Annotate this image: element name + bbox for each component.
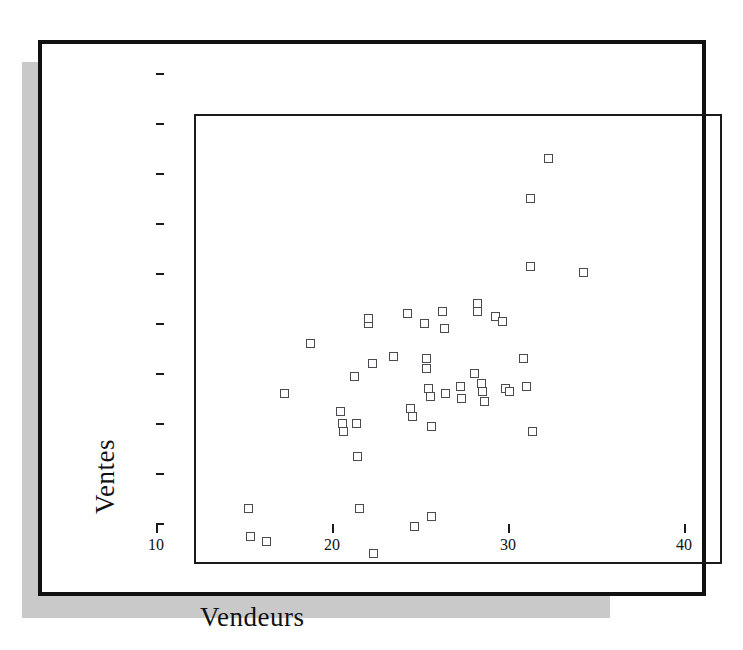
scatter-point [364,314,373,323]
scatter-point [355,504,364,513]
scatter-point [244,504,253,513]
scatter-point [441,389,450,398]
scatter-point [368,359,377,368]
scatter-point [353,452,362,461]
scatter-point [427,422,436,431]
scatter-point [438,307,447,316]
scatter-point [352,419,361,428]
scatter-point [350,372,359,381]
scatter-point [422,364,431,373]
y-axis-title: Ventes [90,439,121,514]
scatter-point [526,194,535,203]
scatter-point [427,512,436,521]
scatter-point [410,522,419,531]
scatter-point [262,537,271,546]
y-tick-mark [156,223,164,225]
figure-page: Ventes Vendeurs 800001000001200001400001… [0,0,743,650]
y-tick-mark [156,473,164,475]
scatter-point [456,382,465,391]
scatter-point [369,549,378,558]
scatter-point [579,268,588,277]
y-tick-mark [156,423,164,425]
scatter-point [389,352,398,361]
y-tick-mark [156,123,164,125]
scatter-point [420,319,429,328]
scatter-point [306,339,315,348]
scatter-point [339,427,348,436]
scatter-point [544,154,553,163]
scatter-point [478,387,487,396]
scatter-point [403,309,412,318]
scatter-point [440,324,449,333]
x-tick-label: 10 [148,536,164,554]
scatter-point [408,412,417,421]
x-axis-title: Vendeurs [200,602,304,633]
scatter-point [526,262,535,271]
scatter-point [498,317,507,326]
scatter-point [470,369,479,378]
y-tick-mark [156,73,164,75]
scatter-point [280,389,289,398]
scatter-point [422,354,431,363]
scatter-point [336,407,345,416]
scatter-plot-area [194,114,722,564]
scatter-point [519,354,528,363]
scatter-point [505,387,514,396]
scatter-point [457,394,466,403]
y-tick-mark [156,173,164,175]
scatter-point [528,427,537,436]
scatter-point [480,397,489,406]
x-tick-mark [156,524,158,533]
scatter-point [473,307,482,316]
figure-frame: Ventes Vendeurs 800001000001200001400001… [38,40,706,596]
y-tick-mark [156,323,164,325]
scatter-point [426,392,435,401]
y-tick-mark [156,273,164,275]
y-tick-mark [156,373,164,375]
scatter-point [246,532,255,541]
scatter-point [522,382,531,391]
